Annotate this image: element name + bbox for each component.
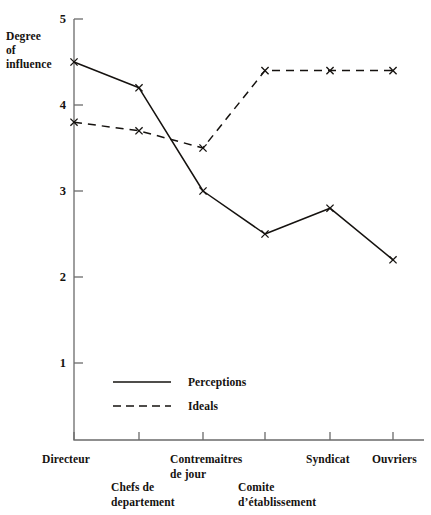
x-axis-label-contremaitres-de-jour-line-1: Contremaitres — [170, 452, 242, 467]
x-axis-label-comite-detablissement-line-1: Comite — [238, 480, 316, 495]
x-axis-label-comite-detablissement: Comited’établissement — [238, 480, 316, 509]
data-point-perceptions-4 — [261, 230, 268, 237]
legend-label-perceptions: Perceptions — [188, 372, 246, 392]
legend-label-ideals: Ideals — [188, 396, 218, 416]
x-axis-label-contremaitres-de-jour: Contremaitresde jour — [170, 452, 242, 481]
legend: Perceptions Ideals — [113, 372, 293, 420]
x-axis-label-ouvriers-line-1: Ouvriers — [372, 452, 417, 467]
x-axis-label-directeur-line-1: Directeur — [42, 452, 90, 467]
legend-item-perceptions: Perceptions — [113, 372, 293, 396]
x-axis-label-syndicat-line-1: Syndicat — [306, 452, 350, 467]
data-point-perceptions-2 — [135, 84, 142, 91]
x-axis-label-syndicat: Syndicat — [306, 452, 350, 467]
plot-area — [0, 0, 431, 515]
x-axis-label-chefs-de-departement: Chefs dedepartement — [111, 480, 175, 509]
data-point-perceptions-3 — [199, 187, 206, 194]
x-axis-label-chefs-de-departement-line-2: departement — [111, 495, 175, 510]
figure-chart-degree-of-influence: Degree of influence 1 2 3 4 5 Directeur … — [0, 0, 431, 515]
data-point-perceptions-6 — [389, 256, 396, 263]
legend-swatch-dashed-icon — [113, 405, 171, 407]
x-axis-label-contremaitres-de-jour-line-2: de jour — [170, 467, 242, 482]
x-axis-label-comite-detablissement-line-2: d’établissement — [238, 495, 316, 510]
x-axis-label-directeur: Directeur — [42, 452, 90, 467]
data-point-perceptions-5 — [326, 205, 333, 212]
legend-item-ideals: Ideals — [113, 396, 293, 420]
x-axis-label-chefs-de-departement-line-1: Chefs de — [111, 480, 175, 495]
series-line-ideals — [74, 71, 393, 148]
series-line-perceptions — [74, 62, 393, 260]
data-point-ideals-4 — [261, 67, 268, 74]
legend-swatch-solid-icon — [113, 381, 171, 383]
x-axis-label-ouvriers: Ouvriers — [372, 452, 417, 467]
